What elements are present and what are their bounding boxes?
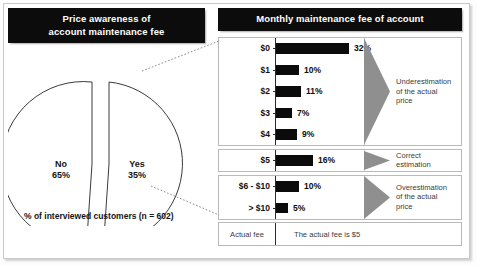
figure-root: Price awareness of account maintenance f… (0, 0, 477, 266)
bar-fill (276, 108, 292, 119)
bar-category-label: > $10 (219, 203, 275, 213)
actual-fee-box: Actual fee The actual fee is $5 (218, 222, 462, 246)
pie-label-yes-text: Yes (114, 159, 160, 170)
pie-label-yes-value: 35% (114, 170, 160, 181)
bar-category-label: $6 - $10 (219, 181, 275, 191)
pie-label-no-text: No (38, 159, 84, 170)
axis-tick (273, 48, 277, 49)
pie-chart-svg (8, 51, 205, 226)
bar-fill (276, 203, 288, 214)
bar-value-label: 10% (304, 181, 321, 191)
bar-value-label: 16% (318, 155, 335, 165)
bar-category-label: $2 (219, 86, 275, 96)
pie-slice-label-no: No 65% (38, 159, 84, 181)
axis-tick (273, 91, 277, 92)
annotation-line: price (396, 202, 447, 212)
axis-tick (273, 186, 277, 187)
annotation-line: of the actual (396, 87, 451, 97)
annotation-line: price (396, 96, 451, 106)
bar-group-overestimation: $6 - $10 10% > $10 5% (218, 175, 462, 220)
right-panel-fee-distribution: Monthly maintenance fee of account $0 32… (218, 8, 462, 252)
pie-slice-yes (104, 82, 183, 226)
left-panel-title-line2: account maintenance fee (12, 26, 201, 39)
bar-category-label: $3 (219, 108, 275, 118)
annotation-line: Overestimation (396, 183, 447, 193)
axis-tick (273, 134, 277, 135)
axis-tick (273, 160, 277, 161)
bar-fill (276, 129, 297, 140)
bar-fill (276, 155, 313, 166)
bar-chart: $0 32% $1 10% (218, 37, 462, 247)
bar-value-label: 7% (297, 108, 309, 118)
bar-value-label: 10% (304, 65, 321, 75)
left-panel-title: Price awareness of account maintenance f… (8, 8, 205, 43)
bar-fill (276, 86, 301, 97)
bar-category-label: $4 (219, 129, 275, 139)
actual-fee-value: The actual fee is $5 (275, 223, 461, 245)
annotation-line: Underestimation (396, 77, 451, 87)
bar-fill (276, 181, 299, 192)
bar-category-label: $5 (219, 155, 275, 165)
pie-label-no-value: 65% (38, 170, 84, 181)
bar-category-label: $1 (219, 65, 275, 75)
axis-tick (273, 70, 277, 71)
right-panel-title: Monthly maintenance fee of account (218, 8, 462, 31)
pie-slice-label-yes: Yes 35% (114, 159, 160, 181)
bar-value-label: 5% (293, 203, 305, 213)
bar-group-correct: $5 16% Correct estimation (218, 149, 462, 173)
left-panel-title-line1: Price awareness of (12, 13, 201, 26)
arrow-right-icon (364, 150, 390, 171)
annotation-line: of the actual (396, 192, 447, 202)
bar-value-label: 11% (306, 86, 323, 96)
arrow-right-icon (364, 38, 390, 145)
pie-caption: % of interviewed customers (n = 602) (24, 211, 174, 221)
bar-category-label: $0 (219, 43, 275, 53)
bar-fill (276, 43, 349, 54)
actual-fee-label: Actual fee (219, 230, 275, 239)
pie-slice-no (8, 82, 92, 226)
bar-value-label: 9% (302, 129, 314, 139)
left-panel-price-awareness: Price awareness of account maintenance f… (8, 8, 205, 252)
arrow-right-icon (364, 176, 390, 219)
actual-fee-row: Actual fee The actual fee is $5 (219, 223, 461, 245)
annotation-line: Correct (396, 151, 431, 161)
axis-tick (273, 113, 277, 114)
bar-fill (276, 65, 299, 76)
annotation-underestimation: Underestimation of the actual price (364, 38, 461, 146)
pie-chart: No 65% Yes 35% (8, 51, 205, 211)
axis-tick (273, 208, 277, 209)
annotation-overestimation: Overestimation of the actual price (364, 176, 461, 219)
annotation-line: estimation (396, 160, 431, 170)
bar-group-underestimation: $0 32% $1 10% (218, 37, 462, 147)
annotation-correct: Correct estimation (364, 150, 461, 172)
